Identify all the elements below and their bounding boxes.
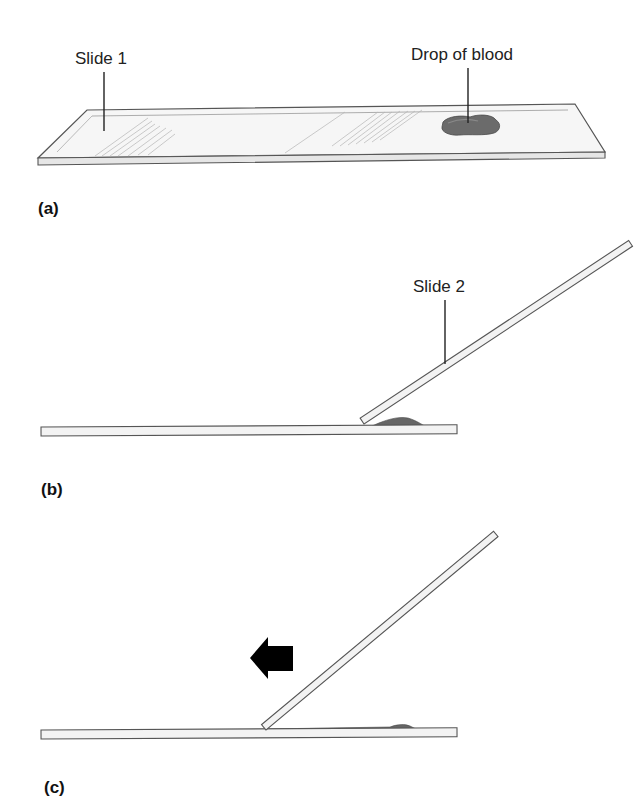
blood-drop-label: Drop of blood (411, 45, 513, 65)
panel-b-illustration (41, 240, 633, 436)
panel-a-label: (a) (38, 199, 59, 219)
panel-a-illustration (38, 68, 605, 165)
slide-2 (360, 240, 632, 424)
slide-1 (38, 104, 605, 158)
left-arrow-icon (250, 637, 293, 679)
blood-drop (442, 115, 500, 135)
slide-1-side-b (41, 425, 457, 436)
slide-2-c (262, 531, 499, 730)
slide-1-label: Slide 1 (75, 49, 127, 69)
blood-smear-diagram: Slide 1 Drop of blood (a) Slide 2 (b) (c… (0, 0, 640, 803)
slide-2-label: Slide 2 (413, 277, 465, 297)
panel-c-label: (c) (44, 778, 65, 798)
panel-c-illustration (41, 531, 498, 739)
slide-1-side-c (41, 728, 457, 739)
panel-b-label: (b) (41, 480, 63, 500)
